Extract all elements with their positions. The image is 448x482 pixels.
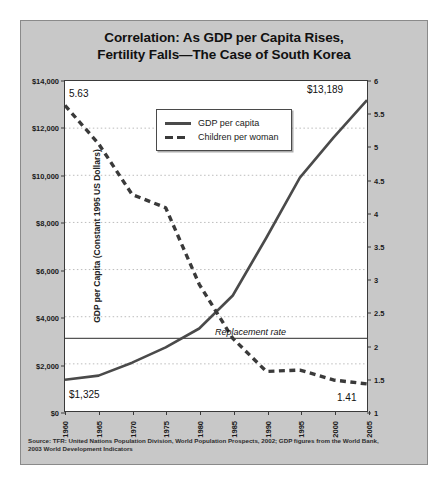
plot-area: GDP per Capita (Constant 1995 US Dollars…: [64, 80, 368, 412]
y-right-tick-mark: [367, 379, 371, 380]
legend-label-fertility: Children per woman: [198, 132, 279, 142]
y-right-tick-mark: [367, 180, 371, 181]
y-right-tick-mark: [367, 147, 371, 148]
x-tick-label: 1970: [128, 421, 137, 438]
y-right-tick-mark: [367, 213, 371, 214]
y-left-tick-label: $0: [51, 409, 59, 418]
x-tick-label: 1960: [61, 421, 70, 438]
y-left-tick-mark: [61, 81, 65, 82]
y-left-tick-mark: [61, 318, 65, 319]
y-left-tick-mark: [61, 270, 65, 271]
y-left-tick-mark: [61, 223, 65, 224]
y-left-tick-label: $2,000: [36, 361, 59, 370]
source-line-2: 2003 World Development Indicators: [28, 445, 420, 453]
y-left-tick-label: $10,000: [32, 171, 59, 180]
y-left-tick-label: $4,000: [36, 314, 59, 323]
y-left-tick-mark: [61, 128, 65, 129]
x-tick-mark: [268, 411, 269, 415]
y-right-tick-label: 2.5: [374, 309, 384, 318]
chart-title-line-2: Fertility Falls—The Case of South Korea: [30, 46, 418, 63]
x-tick-label: 1980: [196, 421, 205, 438]
source-note: Source: TFR: United Nations Population D…: [28, 437, 420, 453]
y-right-tick-mark: [367, 247, 371, 248]
y-left-tick-label: $12,000: [32, 124, 59, 133]
x-tick-label: 1990: [263, 421, 272, 438]
x-tick-label: 2000: [331, 421, 340, 438]
y-right-tick-label: 3: [374, 276, 378, 285]
legend-item-gdp: GDP per capita: [165, 116, 279, 130]
y-right-tick-label: 4.5: [374, 176, 384, 185]
chart-legend: GDP per capita Children per woman: [156, 109, 292, 151]
y-right-tick-label: 4: [374, 209, 378, 218]
chart-title: Correlation: As GDP per Capita Rises, Fe…: [30, 29, 418, 63]
y-right-tick-mark: [367, 280, 371, 281]
annotation-gdp-start: $1,325: [69, 389, 100, 400]
chart-screenshot: Correlation: As GDP per Capita Rises, Fe…: [0, 0, 448, 482]
y-right-tick-label: 2: [374, 342, 378, 351]
annotation-fertility-end: 1.41: [337, 392, 356, 403]
y-left-tick-mark: [61, 175, 65, 176]
legend-label-gdp: GDP per capita: [198, 118, 259, 128]
y-right-tick-mark: [367, 114, 371, 115]
x-tick-label: 1985: [229, 421, 238, 438]
dashed-line-icon: [165, 132, 191, 142]
annotation-gdp-end: $13,189: [307, 84, 343, 95]
y-left-tick-label: $8,000: [36, 219, 59, 228]
legend-item-fertility: Children per woman: [165, 130, 279, 144]
y-right-tick-label: 5: [374, 143, 378, 152]
source-line-1: Source: TFR: United Nations Population D…: [28, 437, 420, 445]
x-tick-mark: [166, 411, 167, 415]
y-left-tick-mark: [61, 365, 65, 366]
y-right-tick-mark: [367, 313, 371, 314]
chart-title-line-1: Correlation: As GDP per Capita Rises,: [30, 29, 418, 46]
y-right-tick-mark: [367, 81, 371, 82]
y-right-tick-label: 5.5: [374, 110, 384, 119]
x-tick-mark: [133, 411, 134, 415]
x-tick-mark: [369, 411, 370, 415]
y-right-tick-mark: [367, 346, 371, 347]
x-tick-mark: [200, 411, 201, 415]
x-tick-label: 1995: [297, 421, 306, 438]
solid-line-icon: [165, 118, 191, 128]
x-tick-mark: [335, 411, 336, 415]
y-right-tick-label: 6: [374, 77, 378, 86]
y-axis-left-title: GDP per Capita (Constant 1995 US Dollars…: [92, 126, 102, 346]
y-right-tick-label: 3.5: [374, 243, 384, 252]
x-tick-label: 1975: [162, 421, 171, 438]
y-left-tick-label: $14,000: [32, 77, 59, 86]
x-tick-mark: [301, 411, 302, 415]
x-tick-label: 2005: [365, 421, 374, 438]
annotation-replacement-rate: Replacement rate: [215, 327, 286, 337]
annotation-fertility-start: 5.63: [69, 88, 88, 99]
x-tick-mark: [65, 411, 66, 415]
x-tick-mark: [99, 411, 100, 415]
y-right-tick-label: 1: [374, 409, 378, 418]
x-tick-mark: [234, 411, 235, 415]
y-left-tick-label: $6,000: [36, 266, 59, 275]
x-tick-label: 1965: [94, 421, 103, 438]
y-right-tick-label: 1.5: [374, 375, 384, 384]
